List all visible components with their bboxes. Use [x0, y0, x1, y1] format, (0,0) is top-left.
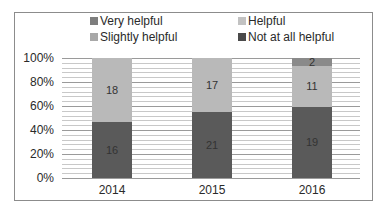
segment-value-label: 18: [106, 84, 118, 96]
legend-label: Helpful: [248, 14, 285, 28]
bar-segment-helpful: 18: [92, 58, 132, 122]
legend-swatch-helpful: [238, 17, 246, 25]
legend-item-helpful: Helpful: [238, 14, 285, 28]
gridline: [62, 178, 360, 179]
bar-2014: 16 18: [92, 58, 132, 178]
plot-area: 16 18 21 17 19 11 2: [62, 58, 360, 178]
bar-segment-not-at-all-helpful: 16: [92, 122, 132, 178]
bar-segment-helpful: 11: [292, 66, 332, 107]
legend-item-slightly-helpful: Slightly helpful: [90, 30, 177, 44]
legend-label: Not at all helpful: [248, 30, 334, 44]
legend: Very helpful Helpful Slightly helpful No…: [90, 14, 350, 46]
legend-item-very-helpful: Very helpful: [90, 14, 163, 28]
y-tick-label: 40%: [14, 124, 54, 136]
bar-segment-helpful: 17: [192, 58, 232, 112]
segment-value-label: 2: [309, 56, 315, 68]
segment-value-label: 19: [306, 136, 318, 148]
y-tick-label: 60%: [14, 100, 54, 112]
x-tick-label: 2016: [282, 184, 342, 196]
y-tick-label: 0%: [14, 172, 54, 184]
bar-segment-not-at-all-helpful: 19: [292, 107, 332, 178]
bar-2016: 19 11 2: [292, 58, 332, 178]
bar-segment-not-at-all-helpful: 21: [192, 112, 232, 178]
segment-value-label: 16: [106, 144, 118, 156]
y-tick-label: 100%: [14, 52, 54, 64]
y-tick-label: 80%: [14, 76, 54, 88]
segment-value-label: 17: [206, 79, 218, 91]
legend-swatch-very-helpful: [90, 17, 98, 25]
bar-segment-very-helpful: 2: [292, 58, 332, 66]
legend-label: Very helpful: [100, 14, 163, 28]
x-tick-label: 2014: [82, 184, 142, 196]
y-tick-label: 20%: [14, 148, 54, 160]
legend-swatch-slightly-helpful: [90, 33, 98, 41]
legend-swatch-not-at-all-helpful: [238, 33, 246, 41]
x-tick-label: 2015: [182, 184, 242, 196]
bar-2015: 21 17: [192, 58, 232, 178]
legend-label: Slightly helpful: [100, 30, 177, 44]
segment-value-label: 11: [306, 80, 317, 92]
segment-value-label: 21: [206, 139, 218, 151]
legend-item-not-at-all-helpful: Not at all helpful: [238, 30, 334, 44]
